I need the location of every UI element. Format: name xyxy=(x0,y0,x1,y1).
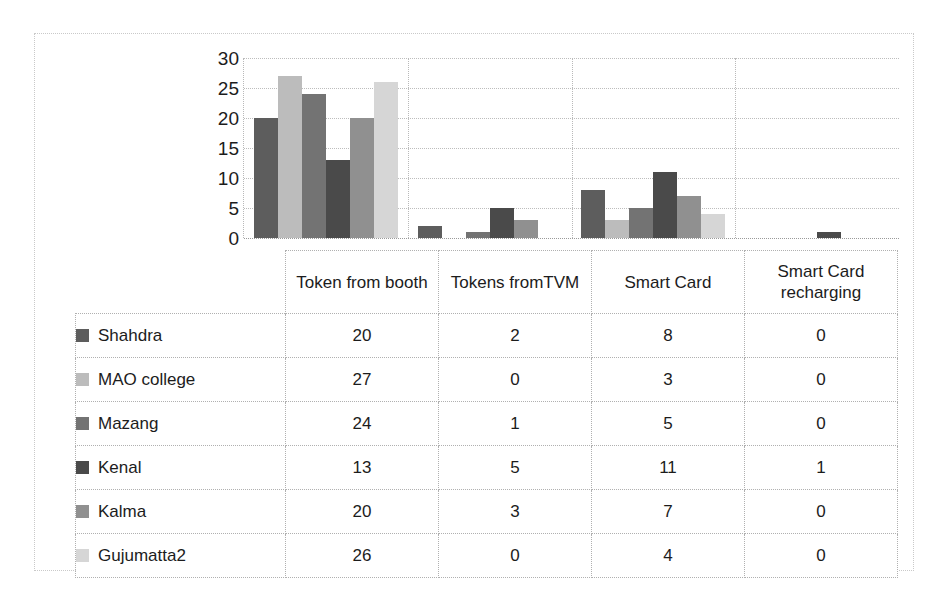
plot-region: 302520151050 xyxy=(35,34,915,250)
table-value-cell: 11 xyxy=(592,446,745,490)
bar xyxy=(302,94,326,238)
chart-frame: 302520151050 Token from boothTokens from… xyxy=(34,33,914,571)
bar-group xyxy=(572,58,736,238)
table-header-row: Token from boothTokens fromTVMSmart Card… xyxy=(76,251,898,314)
table-value-cell: 0 xyxy=(439,534,592,578)
data-table: Token from boothTokens fromTVMSmart Card… xyxy=(75,250,898,578)
bar xyxy=(326,160,350,238)
legend-label: Shahdra xyxy=(98,326,162,345)
table-value-cell: 0 xyxy=(745,490,898,534)
legend-swatch-icon xyxy=(76,373,89,386)
table-value-cell: 0 xyxy=(745,534,898,578)
table-row: Shahdra20280 xyxy=(76,314,898,358)
table-row: MAO college27030 xyxy=(76,358,898,402)
table-row: Kalma20370 xyxy=(76,490,898,534)
bars-layer xyxy=(244,58,899,238)
y-axis-tick: 25 xyxy=(183,79,239,98)
bar xyxy=(701,214,725,238)
legend-cell: Mazang xyxy=(76,402,286,446)
table-body: Shahdra20280MAO college27030Mazang24150K… xyxy=(76,314,898,578)
table-row: Kenal135111 xyxy=(76,446,898,490)
legend-cell: Kalma xyxy=(76,490,286,534)
legend-label: Mazang xyxy=(98,414,158,433)
table-row: Gujumatta226040 xyxy=(76,534,898,578)
table-value-cell: 1 xyxy=(439,402,592,446)
y-axis-tick: 0 xyxy=(183,229,239,248)
table-value-cell: 4 xyxy=(592,534,745,578)
bar-group xyxy=(408,58,572,238)
table-value-cell: 3 xyxy=(439,490,592,534)
table-value-cell: 5 xyxy=(439,446,592,490)
y-axis-tick: 10 xyxy=(183,169,239,188)
legend-cell: Gujumatta2 xyxy=(76,534,286,578)
plot-area xyxy=(243,58,899,238)
table-value-cell: 8 xyxy=(592,314,745,358)
legend-label: Kenal xyxy=(98,458,141,477)
table-value-cell: 27 xyxy=(286,358,439,402)
bar xyxy=(817,232,841,238)
table-value-cell: 24 xyxy=(286,402,439,446)
bar xyxy=(677,196,701,238)
table-value-cell: 0 xyxy=(745,402,898,446)
legend-swatch-icon xyxy=(76,329,89,342)
bar xyxy=(466,232,490,238)
legend-label: Gujumatta2 xyxy=(98,546,186,565)
table-value-cell: 0 xyxy=(745,314,898,358)
legend-cell: Shahdra xyxy=(76,314,286,358)
table-value-cell: 20 xyxy=(286,314,439,358)
y-axis-tick: 20 xyxy=(183,109,239,128)
y-axis: 302520151050 xyxy=(183,58,239,238)
legend-label: Kalma xyxy=(98,502,146,521)
table-value-cell: 7 xyxy=(592,490,745,534)
table-row: Mazang24150 xyxy=(76,402,898,446)
legend-swatch-icon xyxy=(76,549,89,562)
table-value-cell: 1 xyxy=(745,446,898,490)
y-axis-tick: 15 xyxy=(183,139,239,158)
bar xyxy=(653,172,677,238)
gridline xyxy=(244,238,899,239)
bar xyxy=(490,208,514,238)
bar-group xyxy=(244,58,408,238)
bar xyxy=(278,76,302,238)
legend-swatch-icon xyxy=(76,461,89,474)
table-header-cell: Smart Card recharging xyxy=(745,251,898,314)
table-value-cell: 3 xyxy=(592,358,745,402)
bar-group xyxy=(735,58,899,238)
table-header-blank xyxy=(76,251,286,314)
table-value-cell: 0 xyxy=(439,358,592,402)
table-value-cell: 26 xyxy=(286,534,439,578)
bar xyxy=(374,82,398,238)
bar xyxy=(581,190,605,238)
table-value-cell: 13 xyxy=(286,446,439,490)
table-header-cell: Smart Card xyxy=(592,251,745,314)
y-axis-tick: 5 xyxy=(183,199,239,218)
legend-cell: MAO college xyxy=(76,358,286,402)
table-value-cell: 5 xyxy=(592,402,745,446)
bar xyxy=(350,118,374,238)
legend-swatch-icon xyxy=(76,417,89,430)
bar xyxy=(418,226,442,238)
y-axis-tick: 30 xyxy=(183,49,239,68)
legend-swatch-icon xyxy=(76,505,89,518)
legend-label: MAO college xyxy=(98,370,195,389)
bar xyxy=(629,208,653,238)
table-header-cell: Token from booth xyxy=(286,251,439,314)
table-value-cell: 20 xyxy=(286,490,439,534)
table-value-cell: 2 xyxy=(439,314,592,358)
bar xyxy=(605,220,629,238)
bar xyxy=(514,220,538,238)
table-header-cell: Tokens fromTVM xyxy=(439,251,592,314)
table-value-cell: 0 xyxy=(745,358,898,402)
legend-cell: Kenal xyxy=(76,446,286,490)
bar xyxy=(254,118,278,238)
